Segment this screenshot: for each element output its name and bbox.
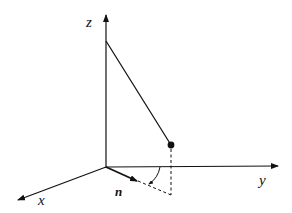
normal-vector-label: n bbox=[115, 184, 122, 199]
x-axis bbox=[18, 167, 106, 200]
pendulum-string bbox=[106, 41, 171, 145]
normal-vector-n bbox=[106, 167, 137, 181]
y-axis bbox=[106, 166, 278, 167]
diagram-canvas: z y x n bbox=[0, 0, 292, 213]
horizontal-projection-dashed bbox=[138, 181, 171, 195]
y-axis-label: y bbox=[257, 172, 266, 188]
pendulum-axes-diagram: z y x n bbox=[0, 0, 292, 213]
pendulum-bob bbox=[168, 142, 175, 149]
x-axis-label: x bbox=[37, 192, 45, 208]
z-axis-label: z bbox=[85, 14, 92, 30]
angle-arc bbox=[149, 167, 160, 184]
